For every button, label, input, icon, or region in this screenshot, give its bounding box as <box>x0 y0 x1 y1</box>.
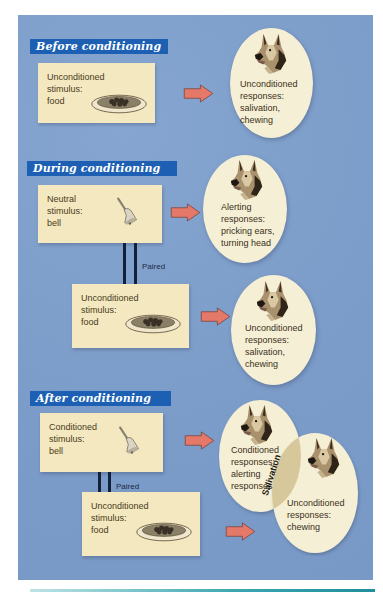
bell-icon <box>116 195 138 227</box>
food-bowl-icon <box>90 92 148 116</box>
stimulus-box-bell: Neutral stimulus: bell <box>38 185 162 243</box>
section-heading-after: After conditioning <box>30 391 171 406</box>
response-label: Alerting responses: pricking ears, turni… <box>221 201 275 249</box>
stimulus-box-bell: Conditioned stimulus: bell <box>40 413 163 472</box>
stimulus-label: Neutral stimulus: bell <box>47 193 117 229</box>
paired-connector-left <box>98 472 101 492</box>
arrow-right-icon <box>183 84 214 103</box>
arrow-right-icon <box>200 307 231 326</box>
dog-head-icon <box>254 279 292 321</box>
stimulus-label: Conditioned stimulus: bell <box>49 421 119 457</box>
dog-head-icon <box>228 158 266 200</box>
response-label: Unconditioned responses: salivation, che… <box>245 322 303 370</box>
bell-icon <box>118 424 140 456</box>
bottom-rule <box>30 589 375 592</box>
paired-label: Paired <box>142 262 165 271</box>
response-label: Unconditioned responses: salivation, che… <box>240 78 298 126</box>
section-heading-during: During conditioning <box>27 161 177 176</box>
arrow-right-icon <box>170 203 201 222</box>
dog-head-icon <box>252 32 290 74</box>
paired-connector-right <box>108 472 111 492</box>
arrow-right-icon <box>184 431 215 450</box>
dog-head-icon <box>305 436 343 478</box>
section-heading-before: Before conditioning <box>30 39 168 54</box>
food-bowl-icon <box>135 520 193 544</box>
paired-connector-right <box>134 243 137 284</box>
paired-label: Paired <box>116 482 139 491</box>
paired-connector-left <box>123 243 126 284</box>
food-bowl-icon <box>124 312 182 336</box>
response-label-unconditioned: Unconditioned responses: chewing <box>287 497 345 533</box>
dog-head-icon <box>238 403 276 445</box>
